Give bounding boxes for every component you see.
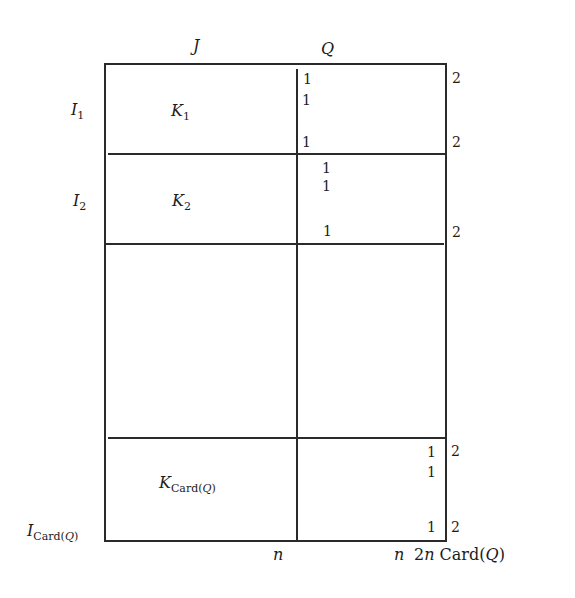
block-label-kcard: KCard(Q) bbox=[159, 475, 216, 491]
sub-var: Q bbox=[65, 530, 74, 543]
q-entry-b2-3: 1 bbox=[323, 224, 332, 238]
right-value-b2-bottom: 2 bbox=[452, 225, 461, 239]
left-border bbox=[104, 63, 106, 542]
q-entry-b1-1: 1 bbox=[303, 72, 312, 86]
block-label-k1-sub: 1 bbox=[183, 110, 190, 123]
row-label-i1-sub: 1 bbox=[77, 109, 84, 122]
top-border bbox=[104, 63, 447, 65]
column-header-q: Q bbox=[321, 41, 334, 57]
block-label-k1: K1 bbox=[171, 103, 190, 119]
block-label-kcard-sub: Card(Q) bbox=[171, 482, 216, 495]
sub-suffix: ) bbox=[74, 530, 78, 543]
j-q-divider bbox=[296, 69, 298, 542]
sub-var: Q bbox=[203, 482, 212, 495]
bottom-label-mid-n: n bbox=[273, 547, 283, 563]
q-entry-bc-3: 1 bbox=[427, 520, 436, 534]
bottom-border bbox=[104, 540, 447, 542]
row-label-i1: I1 bbox=[71, 102, 84, 118]
q-entry-bc-1: 1 bbox=[427, 445, 436, 459]
total-var: n bbox=[424, 545, 434, 564]
q-entry-bc-2: 1 bbox=[427, 465, 436, 479]
right-value-bc-top: 2 bbox=[451, 444, 460, 458]
total-text: Card( bbox=[435, 545, 486, 564]
bottom-label-total: 2n Card(Q) bbox=[414, 547, 505, 563]
right-value-bc-bottom: 2 bbox=[451, 520, 460, 534]
bottom-label-right-n: n bbox=[394, 547, 404, 563]
block-label-k2: K2 bbox=[172, 193, 191, 209]
sub-prefix: Card( bbox=[171, 482, 203, 495]
column-header-j: J bbox=[193, 38, 199, 54]
row-label-i2-sub: 2 bbox=[79, 200, 86, 213]
block-label-k2-base: K bbox=[172, 191, 184, 210]
block2-separator bbox=[104, 243, 444, 245]
blockcard-separator bbox=[108, 437, 447, 439]
total-q: Q bbox=[486, 545, 499, 564]
q-entry-b2-1: 1 bbox=[322, 161, 331, 175]
block-label-k2-sub: 2 bbox=[184, 200, 191, 213]
q-entry-b1-3: 1 bbox=[302, 135, 311, 149]
block1-separator bbox=[108, 153, 447, 155]
total-prefix: 2 bbox=[414, 545, 424, 564]
right-value-b1-bottom: 2 bbox=[452, 135, 461, 149]
q-entry-b1-2: 1 bbox=[302, 93, 311, 107]
block-label-k1-base: K bbox=[171, 101, 183, 120]
q-entry-b2-2: 1 bbox=[322, 179, 331, 193]
block-label-kcard-base: K bbox=[159, 473, 171, 492]
row-label-i2: I2 bbox=[73, 193, 86, 209]
right-value-b1-top: 2 bbox=[452, 71, 461, 85]
total-suffix: ) bbox=[499, 545, 505, 564]
sub-prefix: Card( bbox=[33, 530, 65, 543]
row-label-icard-sub: Card(Q) bbox=[33, 530, 78, 543]
right-border bbox=[445, 63, 447, 542]
sub-suffix: ) bbox=[212, 482, 216, 495]
row-label-icard: ICard(Q) bbox=[27, 523, 78, 539]
